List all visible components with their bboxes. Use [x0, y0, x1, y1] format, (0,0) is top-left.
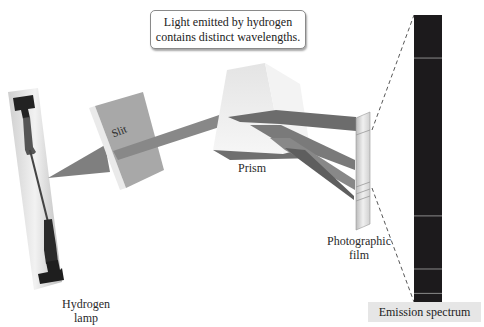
callout-line-1: Light emitted by hydrogen	[151, 15, 305, 30]
emission-spectrum-label: Emission spectrum	[368, 302, 481, 322]
prism-label: Prism	[232, 161, 272, 175]
lamp-label-line-2: lamp	[56, 311, 116, 325]
callout-box: Light emitted by hydrogen contains disti…	[150, 10, 306, 49]
hydrogen-emission-diagram: Light emitted by hydrogen contains disti…	[0, 0, 484, 327]
photographic-film-label: Photographic film	[316, 234, 402, 262]
hydrogen-lamp	[8, 88, 64, 290]
projection-line-top	[372, 15, 414, 130]
film-label-line-2: film	[316, 248, 402, 262]
hydrogen-lamp-label: Hydrogen lamp	[56, 297, 116, 325]
film-label-line-1: Photographic	[316, 234, 402, 248]
light-beam-to-slit	[48, 145, 110, 178]
photographic-film	[356, 112, 370, 230]
lamp-label-line-1: Hydrogen	[56, 297, 116, 311]
emission-spectrum-strip	[414, 15, 442, 302]
callout-line-2: contains distinct wavelengths.	[151, 30, 305, 45]
